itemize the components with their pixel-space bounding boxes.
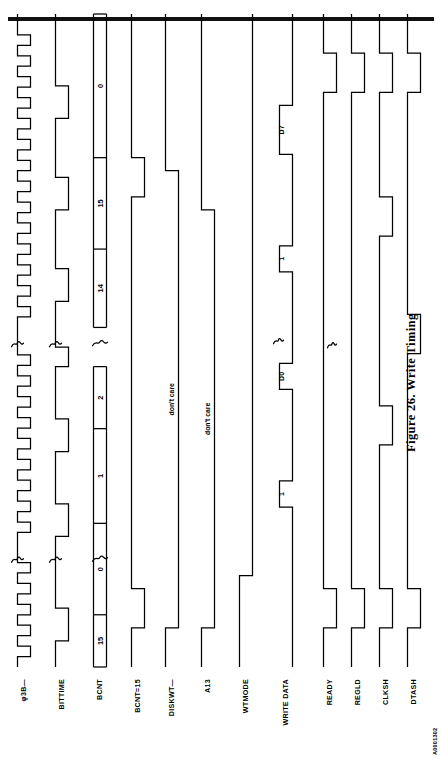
dont-care-annotation: don't care [204, 403, 211, 435]
bus-value: 1 [96, 474, 105, 478]
bus-value: 15 [96, 637, 105, 645]
waveform-canvas: 1501214150don't caredon't care1D01D7 [0, 0, 442, 763]
dont-care-annotation: don't care [168, 383, 175, 415]
trace-label-dtash: DTASH [410, 679, 418, 763]
waveform-diskwt [166, 14, 179, 667]
timing-diagram-rotated-wrapper: 1501214150don't caredon't care1D01D7 φ3B… [0, 0, 442, 763]
timing-diagram: 1501214150don't caredon't care1D01D7 φ3B… [0, 0, 442, 763]
waveform-bcnt-eq-15 [132, 14, 145, 667]
trace-label-bittime: BITTIME [58, 679, 66, 763]
waveform-wtmode [240, 14, 253, 667]
bus-value: 2 [96, 396, 105, 400]
pulse-label: D7 [278, 125, 285, 134]
waveform-a13 [202, 14, 215, 667]
waveform-ready [324, 14, 337, 667]
trace-label-bcnt-eq-15: BCNT=15 [134, 679, 142, 763]
trace-label-write-data: WRITE DATA [282, 679, 290, 763]
bus-value: 0 [96, 567, 105, 571]
trace-label-bcnt: BCNT [96, 679, 104, 763]
trace-label-ready: READY [326, 679, 334, 763]
waveform-bittime [56, 14, 69, 667]
figure-caption: Figure 26. Write Timing [404, 313, 419, 452]
trace-label-diskwt: DISKWT— [168, 679, 176, 763]
trace-label-phi3b: φ3B— [20, 679, 28, 763]
pulse-label: 1 [278, 492, 285, 496]
waveform-phi3b [18, 14, 31, 667]
bus-value: 0 [96, 84, 105, 88]
trace-label-regld: REGLD [354, 679, 362, 763]
pulse-label: D0 [278, 372, 285, 381]
pulse-label: 1 [278, 257, 285, 261]
waveform-regld [352, 14, 365, 667]
figure-id: A0001302 [432, 728, 438, 755]
waveform-clksh [380, 14, 393, 667]
scanned-page: 1501214150don't caredon't care1D01D7 φ3B… [0, 0, 442, 763]
trace-label-a13: A13 [204, 679, 212, 763]
bus-value: 15 [96, 199, 105, 207]
bus-value: 14 [96, 283, 105, 292]
trace-label-clksh: CLKSH [382, 679, 390, 763]
trace-label-wtmode: WTMODE [242, 679, 250, 763]
